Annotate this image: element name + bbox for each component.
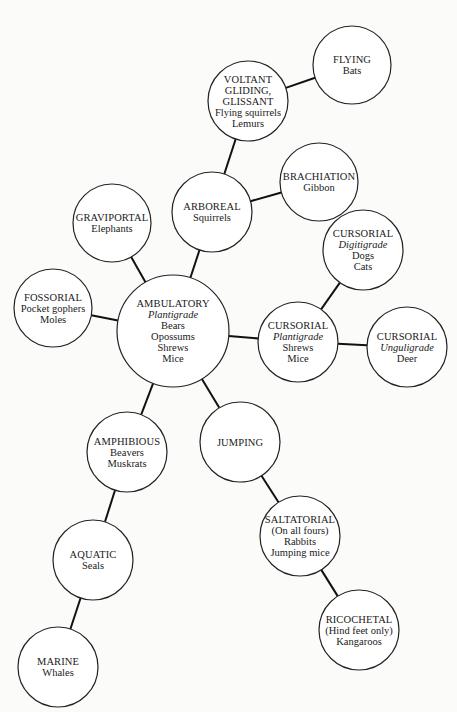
node-example: Shrews: [158, 342, 189, 353]
node-example: Deer: [397, 353, 417, 364]
node-aquatic: AQUATICSeals: [53, 520, 133, 600]
node-title: VOLTANT: [224, 74, 272, 85]
node-saltatorial: SALTATORIAL(On all fours)RabbitsJumping …: [260, 496, 340, 576]
node-title: AMPHIBIOUS: [94, 436, 160, 447]
node-example: Mice: [287, 353, 309, 364]
node-brachiation: BRACHIATIONGibbon: [280, 143, 358, 221]
node-title: MARINE: [37, 656, 79, 667]
node-voltant: VOLTANTGLIDING,GLISSANTFlying squirrelsL…: [208, 61, 288, 141]
node-example: (On all fours): [271, 525, 328, 536]
node-example: Cats: [354, 261, 373, 272]
edge-ambulatory-to-jumping: [202, 379, 219, 408]
node-cursorial-plantigrade: CURSORIALPlantigradeShrewsMice: [258, 302, 338, 382]
node-title: JUMPING: [217, 437, 263, 448]
node-fossorial: FOSSORIALPocket gophersMoles: [14, 269, 92, 347]
node-gait-type: Unguligrade: [380, 342, 434, 353]
node-cursorial-unguligrade: CURSORIALUnguligradeDeer: [367, 307, 447, 387]
node-title: BRACHIATION: [283, 171, 355, 182]
node-gait-type: Plantigrade: [273, 331, 323, 342]
node-title: CURSORIAL: [377, 331, 437, 342]
node-title: AMBULATORY: [136, 298, 209, 309]
edge-amphibious-to-aquatic: [105, 490, 115, 522]
node-example: Moles: [40, 314, 66, 325]
node-gait-type: Digitigrade: [339, 239, 388, 250]
node-title: SALTATORIAL: [265, 514, 335, 525]
edge-saltatorial-to-ricochetal: [321, 570, 337, 596]
node-example: Bears: [161, 320, 185, 331]
node-example: (Hind feet only): [325, 625, 393, 636]
edge-aquatic-to-marine: [70, 598, 80, 629]
node-title: GRAVIPORTAL: [76, 212, 148, 223]
node-example: Muskrats: [107, 458, 146, 469]
edge-ambulatory-to-graviportal: [131, 257, 145, 282]
node-title: CURSORIAL: [268, 320, 328, 331]
node-example: Whales: [42, 667, 74, 678]
node-title: ARBOREAL: [183, 201, 240, 212]
node-example: Jumping mice: [270, 547, 329, 558]
node-example: Rabbits: [284, 536, 316, 547]
edge-arboreal-to-voltant: [224, 139, 235, 174]
node-example: Pocket gophers: [21, 303, 85, 314]
edge-cursorial-plantigrade-to-cursorial-unguligrade: [338, 344, 367, 345]
node-example: Squirrels: [193, 212, 231, 223]
node-example: GLIDING,: [225, 85, 271, 96]
node-amphibious: AMPHIBIOUSBeaversMuskrats: [87, 412, 167, 492]
node-graviportal: GRAVIPORTALElephants: [73, 184, 151, 262]
node-example: Flying squirrels: [215, 107, 281, 118]
node-marine: MARINEWhales: [18, 627, 98, 707]
node-example: Gibbon: [303, 182, 335, 193]
node-arboreal: ARBOREALSquirrels: [172, 172, 252, 252]
node-ricochetal: RICOCHETAL(Hind feet only)Kangaroos: [319, 590, 399, 670]
node-example: Beavers: [110, 447, 144, 458]
node-example: Dogs: [352, 250, 374, 261]
edge-ambulatory-to-arboreal: [190, 250, 199, 278]
node-example: Seals: [82, 560, 104, 571]
node-cursorial-digitigrade: CURSORIALDigitigradeDogsCats: [323, 210, 403, 290]
node-title: FLYING: [333, 54, 371, 65]
node-example: Shrews: [283, 342, 314, 353]
edge-voltant-to-flying: [286, 78, 315, 88]
edge-cursorial-plantigrade-to-cursorial-digitigrade: [321, 283, 340, 310]
node-title: FOSSORIAL: [24, 292, 82, 303]
node-example: Kangaroos: [336, 636, 382, 647]
node-jumping: JUMPING: [200, 402, 280, 482]
node-example: Mice: [162, 353, 184, 364]
node-ambulatory: AMBULATORYPlantigradeBearsOpossumsShrews…: [117, 275, 229, 387]
node-example: Bats: [343, 65, 362, 76]
node-example: Elephants: [91, 223, 132, 234]
edge-jumping-to-saltatorial: [262, 476, 279, 503]
node-title: RICOCHETAL: [326, 614, 393, 625]
node-title: AQUATIC: [70, 549, 117, 560]
node-title: CURSORIAL: [333, 228, 393, 239]
edge-ambulatory-to-amphibious: [141, 383, 153, 414]
node-example: Lemurs: [232, 118, 264, 129]
node-flying: FLYINGBats: [313, 26, 391, 104]
edge-arboreal-to-brachiation: [251, 193, 282, 202]
node-example: GLISSANT: [223, 96, 274, 107]
edge-ambulatory-to-fossorial: [91, 315, 118, 320]
node-gait-type: Plantigrade: [148, 309, 198, 320]
edge-ambulatory-to-cursorial-plantigrade: [229, 336, 258, 339]
node-example: Opossums: [151, 331, 195, 342]
